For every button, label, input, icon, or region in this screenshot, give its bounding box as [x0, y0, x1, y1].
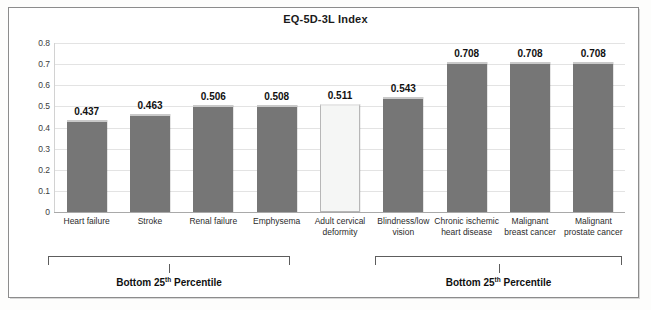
bar-value-label: 0.437	[55, 106, 119, 117]
bar-adult-cervical-deformity[interactable]	[320, 104, 360, 212]
bar-stroke[interactable]	[130, 114, 170, 212]
x-axis-label-line: Malignant	[494, 216, 565, 227]
group-label-suffix: Percentile	[171, 277, 222, 288]
x-axis-label-adult-cervical-deformity: Adult cervicaldeformity	[304, 216, 375, 238]
bar-blindness-low-vision[interactable]	[383, 97, 423, 212]
x-axis-label-line: Blindness/low	[368, 216, 439, 227]
x-axis-label-renal-failure: Renal failure	[178, 216, 249, 227]
bar-malignant-breast-cancer[interactable]	[510, 62, 550, 212]
bar-slot: 0.511	[320, 43, 360, 212]
bar-value-label: 0.708	[561, 48, 625, 59]
x-axis-label-line: vision	[368, 227, 439, 238]
group-label-suffix: Percentile	[501, 277, 552, 288]
gridline	[55, 212, 625, 213]
x-axis-label-line: deformity	[304, 227, 375, 238]
bar-value-label: 0.708	[435, 48, 499, 59]
bar-slot: 0.708	[573, 43, 613, 212]
y-axis-tick-0.6: 0.6	[6, 80, 50, 90]
y-axis-tick-labels: 0.80.70.60.50.40.30.20.10	[0, 43, 50, 213]
bar-value-label: 0.508	[245, 91, 309, 102]
y-axis-tick-0.3: 0.3	[6, 144, 50, 154]
bar-value-label: 0.463	[118, 100, 182, 111]
group-label: Bottom 25th Percentile	[19, 276, 319, 288]
x-axis-label-line: breast cancer	[494, 227, 565, 238]
bar-slot: 0.708	[447, 43, 487, 212]
x-axis-label-emphysema: Emphysema	[241, 216, 312, 227]
bar-slot: 0.508	[257, 43, 297, 212]
x-axis-label-line: prostate cancer	[558, 227, 629, 238]
y-axis-tick-0.1: 0.1	[6, 186, 50, 196]
group-label: Bottom 25th Percentile	[349, 276, 649, 288]
group-label-prefix: Bottom 25	[116, 277, 165, 288]
x-axis-label-heart-failure: Heart failure	[51, 216, 122, 227]
y-axis-tick-0.5: 0.5	[6, 101, 50, 111]
bar-renal-failure[interactable]	[193, 105, 233, 212]
bar-chronic-ischemic-heart-disease[interactable]	[447, 62, 487, 212]
x-axis-label-line: Renal failure	[178, 216, 249, 227]
y-axis-tick-0.8: 0.8	[6, 38, 50, 48]
y-axis-tick-0.4: 0.4	[6, 123, 50, 133]
bar-malignant-prostate-cancer[interactable]	[573, 62, 613, 212]
x-axis-label-malignant-breast-cancer: Malignantbreast cancer	[494, 216, 565, 238]
bar-slot: 0.506	[193, 43, 233, 212]
y-axis-tick-0.7: 0.7	[6, 59, 50, 69]
bar-heart-failure[interactable]	[67, 120, 107, 212]
bar-value-label: 0.543	[371, 83, 435, 94]
x-axis-label-stroke: Stroke	[114, 216, 185, 227]
x-axis-label-line: Adult cervical	[304, 216, 375, 227]
x-axis-label-line: Heart failure	[51, 216, 122, 227]
bar-slot: 0.437	[67, 43, 107, 212]
bar-value-label: 0.511	[308, 90, 372, 101]
x-axis-label-line: Chronic ischemic	[431, 216, 502, 227]
x-axis-label-line: heart disease	[431, 227, 502, 238]
x-axis-label-malignant-prostate-cancer: Malignantprostate cancer	[558, 216, 629, 238]
plot-area: 0.4370.4630.5060.5080.5110.5430.7080.708…	[55, 43, 625, 212]
chart-title: EQ-5D-3L Index	[0, 13, 651, 25]
x-axis-label-chronic-ischemic-heart-disease: Chronic ischemicheart disease	[431, 216, 502, 238]
bar-emphysema[interactable]	[257, 105, 297, 212]
chart-page: EQ-5D-3L Index 0.80.70.60.50.40.30.20.10…	[0, 0, 651, 310]
y-axis-tick-0.2: 0.2	[6, 165, 50, 175]
x-axis-label-line: Malignant	[558, 216, 629, 227]
x-axis-label-line: Stroke	[114, 216, 185, 227]
bar-slot: 0.463	[130, 43, 170, 212]
y-axis-tick-0: 0	[6, 207, 50, 217]
bar-value-label: 0.506	[181, 91, 245, 102]
group-bracket-stem	[169, 264, 170, 273]
group-bracket-stem	[499, 264, 500, 273]
x-axis-label-line: Emphysema	[241, 216, 312, 227]
bar-slot: 0.543	[383, 43, 423, 212]
bar-value-label: 0.708	[498, 48, 562, 59]
bar-slot: 0.708	[510, 43, 550, 212]
x-axis-label-blindness-low-vision: Blindness/lowvision	[368, 216, 439, 238]
group-label-prefix: Bottom 25	[446, 277, 495, 288]
